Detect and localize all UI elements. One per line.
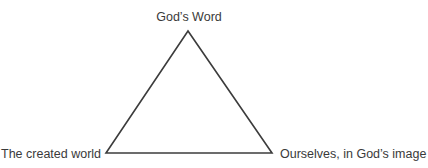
triangle-shape [0,0,428,168]
bottom-right-vertex-label: Ourselves, in God’s image [280,147,426,161]
top-vertex-label: God’s Word [0,10,378,24]
triangle-outline [106,31,272,153]
bottom-left-vertex-label: The created world [1,147,101,161]
triangle-diagram: God’s Word The created world Ourselves, … [0,0,428,168]
